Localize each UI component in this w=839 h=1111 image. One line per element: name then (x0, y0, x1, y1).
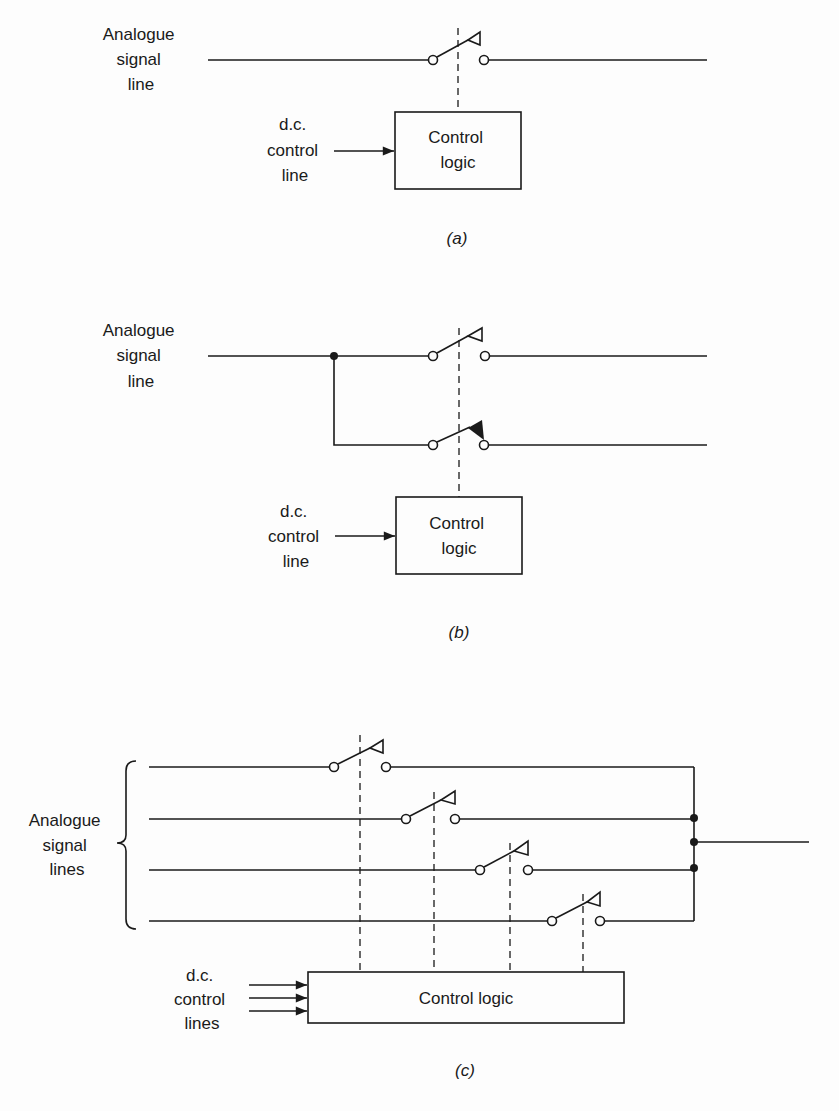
switch-2-icon (402, 791, 460, 824)
signal-line-label: Analogue signal line (103, 25, 180, 94)
switch-icon (429, 32, 489, 65)
caption-b: (b) (449, 623, 470, 642)
control-logic-box (396, 497, 522, 574)
analogue-switch-diagram: Analogue signal line Control logic d.c. … (0, 0, 839, 1111)
caption-c: (c) (455, 1061, 475, 1080)
signal-line-label: Analogue signal line (103, 321, 180, 391)
branch-wire (334, 356, 433, 445)
switch-1-icon (330, 740, 391, 772)
caption-a: (a) (447, 229, 468, 248)
switch-3-icon (476, 841, 533, 875)
control-logic-label: Control logic (419, 989, 514, 1008)
control-logic-box (395, 112, 521, 189)
panel-b: Analogue signal line Control logic d (103, 321, 707, 642)
switch-4-icon (548, 892, 605, 926)
control-line-label: d.c. control line (268, 502, 324, 571)
brace-icon (117, 761, 136, 929)
control-lines-label: d.c. control lines (174, 966, 230, 1033)
panel-a: Analogue signal line Control logic d.c. … (103, 25, 707, 248)
junction-dot-icon (690, 864, 698, 872)
signal-lines-label: Analogue signal lines (29, 811, 106, 879)
panel-c: Analogue signal lines (29, 735, 809, 1080)
junction-dot-icon (690, 814, 698, 822)
control-line-label: d.c. control line (267, 115, 323, 185)
